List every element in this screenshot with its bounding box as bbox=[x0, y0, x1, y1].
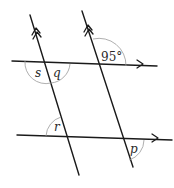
parallel-lines-diagram: 95° s q r p bbox=[0, 0, 174, 188]
angle-label-95: 95° bbox=[101, 50, 122, 64]
arrow-right-icon bbox=[152, 134, 158, 142]
arrow-right-icon bbox=[137, 60, 143, 68]
angle-label-q: q bbox=[53, 66, 61, 80]
angle-label-s: s bbox=[35, 66, 41, 80]
transversal-left bbox=[30, 15, 79, 175]
horizontal-top bbox=[12, 61, 157, 66]
angle-label-p: p bbox=[130, 142, 138, 156]
angle-label-r: r bbox=[54, 120, 61, 134]
horizontal-bottom bbox=[17, 135, 172, 140]
transversal-right bbox=[82, 11, 133, 167]
double-arrow-icon bbox=[84, 25, 93, 36]
